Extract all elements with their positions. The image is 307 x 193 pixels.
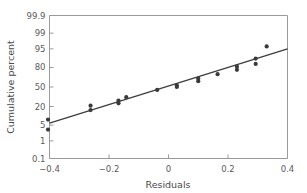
normal-probability-plot: 0.115205080959999.9 −0.4−0.200.20.4 Resi… — [0, 0, 307, 193]
data-point — [215, 72, 219, 76]
data-point — [46, 128, 50, 132]
data-point — [175, 83, 179, 87]
x-tick-label: 0.4 — [281, 164, 295, 174]
x-tick-label: 0.2 — [221, 164, 235, 174]
x-tick-label: −0.2 — [99, 164, 120, 174]
data-point — [46, 117, 50, 121]
y-tick-label: 5 — [40, 120, 45, 130]
data-point — [265, 44, 269, 48]
data-point — [155, 88, 159, 92]
y-tick-label: 20 — [35, 102, 46, 112]
y-tick-label: 95 — [35, 44, 46, 54]
x-tick-label: 0 — [166, 164, 171, 174]
y-axis-title: Cumulative percent — [5, 40, 16, 134]
x-axis-title: Residuals — [145, 179, 190, 190]
data-point — [124, 95, 128, 99]
y-tick-label: 50 — [35, 82, 46, 92]
reference-line — [50, 49, 288, 123]
data-point — [254, 62, 258, 66]
x-axis-tick-labels: −0.4−0.200.20.4 — [39, 164, 294, 174]
plot-frame — [50, 16, 288, 159]
y-tick-label: 1 — [40, 136, 45, 146]
x-tick-label: −0.4 — [39, 164, 60, 174]
data-point — [88, 108, 92, 112]
axes-frame — [50, 16, 288, 159]
data-point — [116, 98, 120, 102]
data-point — [196, 77, 200, 81]
y-tick-label: 99.9 — [27, 11, 46, 21]
y-tick-label: 99 — [35, 28, 46, 38]
y-tick-label: 80 — [35, 62, 46, 72]
y-axis-ticks — [50, 16, 54, 159]
data-points — [46, 44, 269, 131]
reference-line-segment — [50, 49, 288, 123]
y-axis-tick-labels: 0.115205080959999.9 — [27, 11, 46, 164]
data-point — [88, 104, 92, 108]
data-point — [235, 65, 239, 69]
chart-canvas: 0.115205080959999.9 −0.4−0.200.20.4 Resi… — [0, 0, 307, 193]
x-axis-ticks — [50, 155, 288, 159]
y-tick-label: 0.1 — [32, 154, 46, 164]
data-point — [254, 56, 258, 60]
